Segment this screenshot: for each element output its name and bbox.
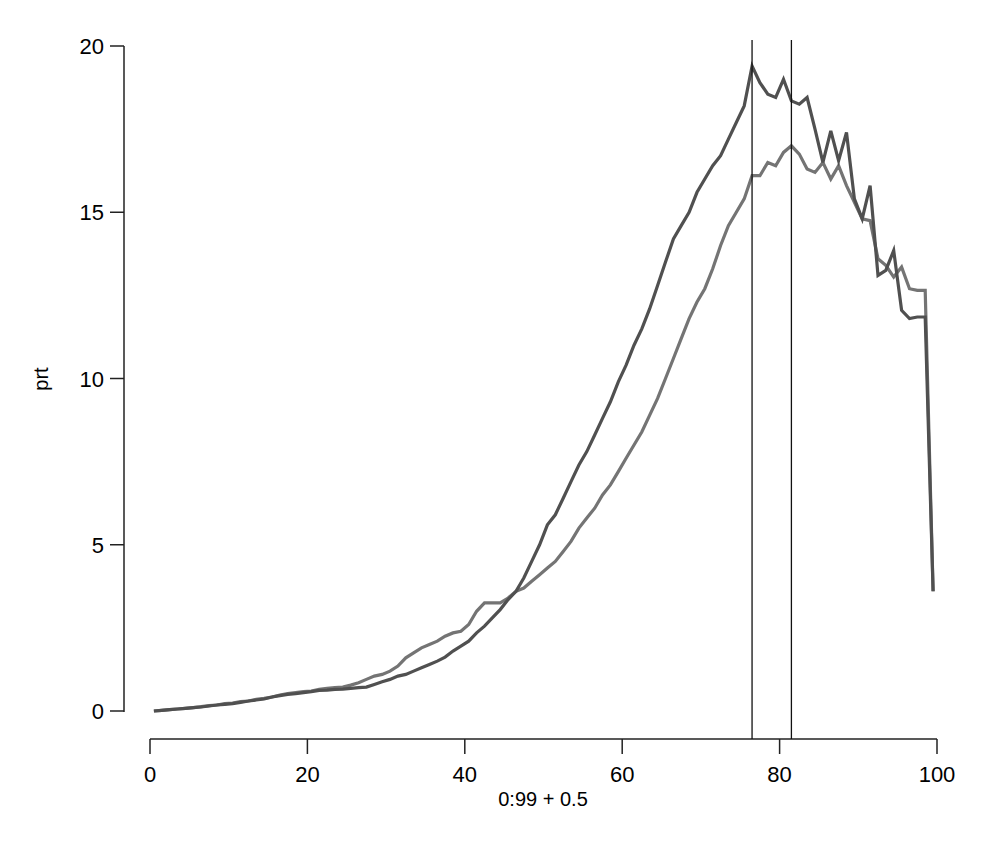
x-tick-label: 80 — [767, 762, 791, 787]
y-tick-label: 5 — [92, 533, 104, 558]
y-tick-label: 0 — [92, 699, 104, 724]
y-tick-label: 20 — [80, 34, 104, 59]
x-tick-label: 60 — [610, 762, 634, 787]
y-axis-title: prt — [30, 367, 52, 391]
line-chart: 05101520 prt 020406080100 0:99 + 0.5 — [0, 0, 993, 860]
x-axis-title: 0:99 + 0.5 — [498, 788, 588, 810]
x-tick-label: 40 — [453, 762, 477, 787]
y-tick-label: 10 — [80, 367, 104, 392]
x-tick-label: 0 — [144, 762, 156, 787]
y-axis: 05101520 prt — [30, 34, 124, 724]
x-axis: 020406080100 0:99 + 0.5 — [144, 739, 955, 810]
y-tick-label: 15 — [80, 200, 104, 225]
x-tick-label: 100 — [919, 762, 956, 787]
plot-area — [154, 40, 933, 739]
series-light-line — [154, 146, 933, 711]
series-dark-line — [154, 66, 933, 711]
x-tick-label: 20 — [295, 762, 319, 787]
